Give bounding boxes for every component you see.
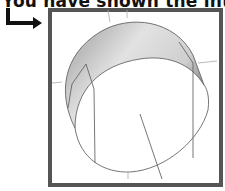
- cylinder-band: [65, 22, 204, 128]
- cylinder-section-diagram: [0, 0, 225, 191]
